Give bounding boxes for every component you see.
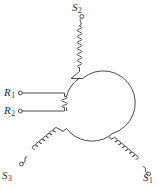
s2-terminal bbox=[80, 15, 84, 19]
label-r1-base: R bbox=[4, 86, 11, 98]
r2-terminal bbox=[18, 109, 22, 113]
s2-hub-connector bbox=[71, 68, 83, 79]
r1-lead bbox=[23, 93, 65, 96]
s3-terminal bbox=[20, 162, 24, 166]
label-r1: R1 bbox=[4, 87, 15, 100]
label-s2: S2 bbox=[72, 2, 82, 15]
s1-coil bbox=[112, 137, 139, 159]
label-r2-base: R bbox=[4, 104, 11, 116]
hub-arc-right bbox=[83, 71, 136, 134]
label-r2: R2 bbox=[4, 105, 15, 118]
s3-hub-connector bbox=[59, 129, 67, 132]
s2-lead bbox=[80, 18, 82, 26]
s2-coil bbox=[77, 26, 82, 68]
label-s2-base: S bbox=[72, 1, 78, 13]
hub-arc-upper-left bbox=[67, 78, 80, 97]
schematic-figure: S2 S1 S3 R1 R2 bbox=[0, 0, 163, 189]
label-r2-sub: 2 bbox=[11, 109, 15, 118]
label-s1: S1 bbox=[143, 172, 153, 185]
label-s3-sub: 3 bbox=[8, 174, 12, 183]
label-s1-base: S bbox=[143, 171, 149, 183]
r2-lead bbox=[23, 108, 65, 111]
label-s1-sub: 1 bbox=[149, 176, 153, 185]
hub-arc-bottom-left bbox=[67, 129, 109, 142]
r1-terminal bbox=[18, 91, 22, 95]
label-r1-sub: 1 bbox=[11, 91, 15, 100]
label-s2-sub: 2 bbox=[78, 6, 82, 15]
s3-coil bbox=[32, 127, 59, 149]
schematic-canvas bbox=[0, 0, 163, 189]
label-s3: S3 bbox=[2, 170, 12, 183]
r-coil bbox=[62, 96, 68, 108]
label-s3-base: S bbox=[2, 169, 8, 181]
s3-lead bbox=[23, 157, 27, 163]
